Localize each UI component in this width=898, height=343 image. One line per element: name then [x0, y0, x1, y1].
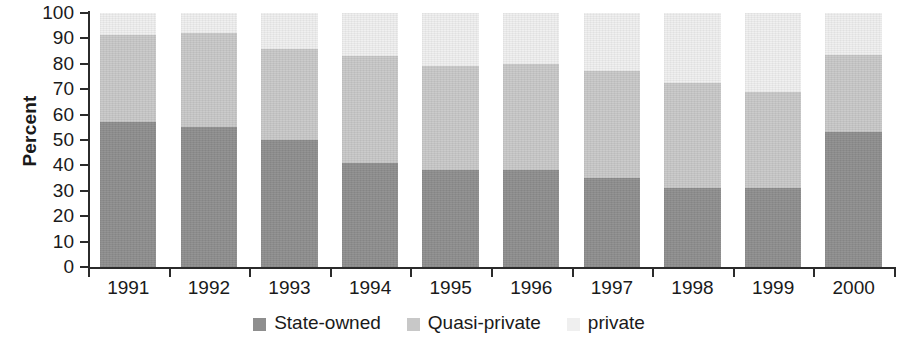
y-axis-tick [80, 266, 88, 268]
x-axis-tick-label: 1991 [88, 277, 169, 299]
bar-segment-quasi-private[interactable] [584, 71, 640, 178]
legend-item[interactable]: private [567, 312, 645, 334]
bar-segment-quasi-private[interactable] [261, 49, 317, 140]
y-axis-tick-label: 10 [30, 232, 74, 251]
y-axis-tick [80, 63, 88, 65]
bar-segment-private[interactable] [825, 13, 881, 55]
bar-group[interactable] [664, 13, 720, 267]
x-axis-tick-label: 1998 [652, 277, 733, 299]
y-axis-tick [80, 88, 88, 90]
y-axis-tick [80, 139, 88, 141]
legend-item[interactable]: Quasi-private [407, 312, 541, 334]
bar-group[interactable] [503, 13, 559, 267]
bar-segment-state-owned[interactable] [422, 170, 478, 267]
legend-item[interactable]: State-owned [253, 312, 381, 334]
bar-group[interactable] [100, 13, 156, 267]
x-axis-tick-label: 1996 [491, 277, 572, 299]
y-axis-tick [80, 241, 88, 243]
x-axis-tick-label: 2000 [813, 277, 894, 299]
y-axis-tick-label: 100 [30, 3, 74, 22]
y-axis-tick [80, 37, 88, 39]
x-axis-tick-label: 1993 [249, 277, 330, 299]
bar-segment-quasi-private[interactable] [422, 66, 478, 170]
bar-group[interactable] [342, 13, 398, 267]
x-axis-tick-label: 1992 [169, 277, 250, 299]
bar-segment-private[interactable] [100, 13, 156, 35]
x-axis-tick [169, 269, 171, 277]
y-axis-tick-label: 60 [30, 105, 74, 124]
x-axis-tick [894, 269, 896, 277]
x-axis-tick [491, 269, 493, 277]
x-axis-tick [572, 269, 574, 277]
x-axis-tick [813, 269, 815, 277]
legend-swatch-icon [567, 318, 580, 331]
x-axis-tick [652, 269, 654, 277]
chart-legend: State-ownedQuasi-privateprivate [0, 312, 898, 334]
y-axis-tick-label: 20 [30, 206, 74, 225]
bar-segment-private[interactable] [422, 13, 478, 66]
y-axis-tick-label: 90 [30, 28, 74, 47]
y-axis-tick-label: 40 [30, 155, 74, 174]
bar-segment-private[interactable] [584, 13, 640, 71]
legend-label: State-owned [274, 312, 381, 334]
y-axis-tick [80, 215, 88, 217]
bar-group[interactable] [422, 13, 478, 267]
x-axis-tick-label: 1994 [330, 277, 411, 299]
bar-group[interactable] [261, 13, 317, 267]
legend-label: private [588, 312, 645, 334]
plot-area [88, 13, 894, 267]
x-axis-tick-label: 1995 [410, 277, 491, 299]
bar-segment-state-owned[interactable] [261, 140, 317, 267]
bar-segment-state-owned[interactable] [342, 163, 398, 267]
y-axis-tick-label: 80 [30, 54, 74, 73]
x-axis-tick [330, 269, 332, 277]
stacked-bar-chart: Percent 0102030405060708090100 199119921… [0, 0, 898, 343]
bar-segment-state-owned[interactable] [181, 127, 237, 267]
y-axis-tick-label: 50 [30, 130, 74, 149]
y-axis-tick [80, 12, 88, 14]
y-axis-tick [80, 164, 88, 166]
legend-swatch-icon [407, 318, 420, 331]
y-axis-tick-label: 30 [30, 181, 74, 200]
bar-segment-state-owned[interactable] [584, 178, 640, 267]
bar-segment-quasi-private[interactable] [342, 56, 398, 163]
x-axis-tick [733, 269, 735, 277]
x-axis-tick [88, 269, 90, 277]
bar-segment-state-owned[interactable] [503, 170, 559, 267]
x-axis-tick-label: 1997 [572, 277, 653, 299]
x-axis-tick-label: 1999 [733, 277, 814, 299]
x-axis-tick [249, 269, 251, 277]
legend-swatch-icon [253, 318, 266, 331]
y-axis-tick-label: 0 [30, 257, 74, 276]
y-axis-tick-label: 70 [30, 79, 74, 98]
bar-segment-quasi-private[interactable] [503, 64, 559, 171]
bar-segment-state-owned[interactable] [825, 132, 881, 267]
bar-segment-private[interactable] [664, 13, 720, 83]
bar-segment-private[interactable] [342, 13, 398, 56]
y-axis-tick [80, 114, 88, 116]
bar-segment-private[interactable] [261, 13, 317, 49]
bar-segment-state-owned[interactable] [100, 122, 156, 267]
bar-segment-private[interactable] [181, 13, 237, 33]
bar-segment-private[interactable] [745, 13, 801, 92]
bar-segment-state-owned[interactable] [745, 188, 801, 267]
bar-segment-quasi-private[interactable] [664, 83, 720, 188]
y-axis-tick [80, 190, 88, 192]
bar-segment-quasi-private[interactable] [181, 33, 237, 127]
bar-segment-private[interactable] [503, 13, 559, 64]
bar-group[interactable] [181, 13, 237, 267]
bar-group[interactable] [584, 13, 640, 267]
bar-segment-quasi-private[interactable] [825, 55, 881, 132]
bar-segment-quasi-private[interactable] [745, 92, 801, 189]
bar-group[interactable] [745, 13, 801, 267]
bar-group[interactable] [825, 13, 881, 267]
bar-segment-quasi-private[interactable] [100, 35, 156, 123]
legend-label: Quasi-private [428, 312, 541, 334]
x-axis-tick [410, 269, 412, 277]
bar-segment-state-owned[interactable] [664, 188, 720, 267]
